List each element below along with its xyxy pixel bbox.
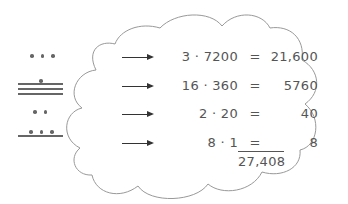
bar	[18, 93, 63, 95]
calculation-lhs: 8 · 1	[160, 135, 238, 150]
calculation-lhs: 2 · 20	[160, 106, 238, 121]
arrow-right-icon	[122, 86, 152, 87]
dots-1	[39, 79, 43, 83]
calculation-lhs: 3 · 7200	[160, 49, 238, 64]
equals-sign: =	[246, 106, 264, 121]
arrow-right-icon	[122, 57, 152, 58]
equals-sign: =	[246, 78, 264, 93]
calculation-lhs: 16 · 360	[160, 78, 238, 93]
total-sum: 27,408	[238, 154, 284, 169]
equals-sign: =	[246, 49, 264, 64]
calculation-row: 2 · 20 = 40	[160, 106, 318, 121]
bar	[18, 88, 63, 90]
calculation-row: 3 · 7200 = 21,600	[160, 49, 318, 64]
calculation-result: 40	[264, 106, 318, 121]
calculation-row: 8 · 1 = 8	[160, 135, 318, 150]
thought-cloud-outline	[0, 0, 348, 204]
dots-2	[33, 110, 47, 114]
bar	[18, 135, 63, 137]
arrow-right-icon	[122, 143, 152, 144]
equals-sign: =	[246, 135, 264, 150]
calculation-result: 5760	[264, 78, 318, 93]
dots-3	[29, 130, 54, 134]
bar	[18, 83, 63, 85]
dots-3	[30, 54, 55, 58]
arrow-right-icon	[122, 114, 152, 115]
calculation-result: 8	[264, 135, 318, 150]
calculation-row: 16 · 360 = 5760	[160, 78, 318, 93]
calculation-result: 21,600	[264, 49, 318, 64]
sum-underline	[238, 151, 284, 152]
